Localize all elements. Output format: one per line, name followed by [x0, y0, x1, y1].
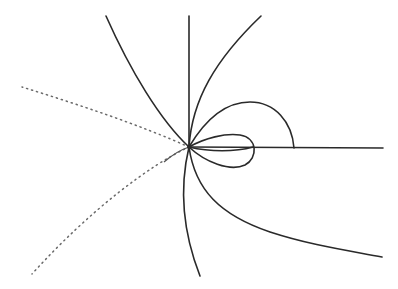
bottom-branch	[184, 147, 200, 276]
upper-left-branch	[106, 16, 189, 147]
left-dotted-ray	[22, 87, 189, 147]
large-loop	[189, 102, 294, 148]
phase-portrait-diagram	[0, 0, 398, 289]
diagram-canvas	[0, 0, 398, 289]
lower-right-branch	[189, 147, 382, 257]
upper-right-branch	[189, 16, 261, 147]
horizontal-ray	[189, 147, 383, 148]
singular-point	[187, 145, 191, 149]
lower-left-dotted-branch	[32, 147, 189, 274]
